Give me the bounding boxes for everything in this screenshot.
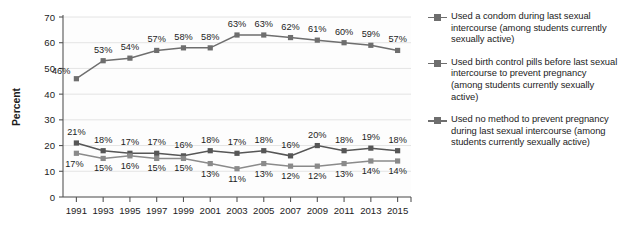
data-point-marker bbox=[181, 45, 186, 50]
x-axis-tick-label: 2015 bbox=[387, 205, 408, 216]
data-point-marker bbox=[127, 153, 132, 158]
data-point-marker bbox=[181, 156, 186, 161]
x-axis-tick-label: 1997 bbox=[146, 205, 167, 216]
data-point-marker bbox=[288, 153, 293, 158]
x-axis-tick-label: 2003 bbox=[226, 205, 247, 216]
data-point-label: 17% bbox=[147, 137, 165, 147]
data-point-marker bbox=[208, 45, 213, 50]
data-point-marker bbox=[315, 143, 320, 148]
data-point-marker bbox=[234, 166, 239, 171]
x-axis-tick-label: 1991 bbox=[66, 205, 87, 216]
data-point-label: 13% bbox=[255, 169, 273, 179]
y-axis-tick-label: 40 bbox=[44, 89, 55, 100]
legend-marker-icon bbox=[428, 11, 447, 24]
legend-item-label: Used no method to prevent pregnancy duri… bbox=[451, 113, 619, 148]
data-point-marker bbox=[315, 38, 320, 43]
data-point-label: 18% bbox=[388, 135, 406, 145]
data-point-marker bbox=[368, 43, 373, 48]
data-point-marker bbox=[395, 48, 400, 53]
data-point-label: 14% bbox=[388, 166, 406, 176]
data-point-marker bbox=[101, 156, 106, 161]
data-point-marker bbox=[234, 32, 239, 37]
y-axis-tick-label: 20 bbox=[44, 140, 55, 151]
data-point-marker bbox=[368, 146, 373, 151]
data-point-marker bbox=[341, 161, 346, 166]
y-axis-tick-label: 10 bbox=[44, 166, 55, 177]
data-point-label: 14% bbox=[362, 166, 380, 176]
data-point-marker bbox=[208, 161, 213, 166]
data-point-marker bbox=[368, 158, 373, 163]
data-point-label: 18% bbox=[255, 135, 273, 145]
x-axis-tick-label: 2001 bbox=[200, 205, 221, 216]
x-axis-tick-label: 1993 bbox=[92, 205, 113, 216]
data-point-label: 13% bbox=[335, 169, 353, 179]
data-point-label: 16% bbox=[281, 140, 299, 150]
data-point-label: 19% bbox=[362, 132, 380, 142]
legend-marker-icon bbox=[428, 57, 447, 70]
data-point-label: 18% bbox=[94, 135, 112, 145]
data-point-marker bbox=[261, 148, 266, 153]
data-point-marker bbox=[101, 148, 106, 153]
data-point-label: 13% bbox=[201, 169, 219, 179]
data-point-marker bbox=[74, 76, 79, 81]
data-point-label: 15% bbox=[147, 163, 165, 173]
data-point-label: 60% bbox=[335, 27, 353, 37]
data-point-label: 15% bbox=[174, 163, 192, 173]
x-axis-tick-label: 2009 bbox=[307, 205, 328, 216]
data-point-label: 58% bbox=[174, 32, 192, 42]
x-axis-tick-label: 1995 bbox=[119, 205, 140, 216]
data-point-label: 63% bbox=[228, 19, 246, 29]
data-point-label: 57% bbox=[388, 34, 406, 44]
chart-container: 010203040506070Percent199119931995199719… bbox=[0, 0, 619, 229]
x-axis-tick-label: 2011 bbox=[334, 205, 355, 216]
data-point-marker bbox=[395, 158, 400, 163]
data-point-label: 20% bbox=[308, 130, 326, 140]
y-axis-tick-label: 30 bbox=[44, 114, 55, 125]
data-point-marker bbox=[101, 58, 106, 63]
y-axis-title: Percent bbox=[11, 87, 22, 126]
x-axis-tick-label: 2013 bbox=[360, 205, 381, 216]
data-point-marker bbox=[154, 151, 159, 156]
legend-item-label: Used a condom during last sexual interco… bbox=[451, 10, 619, 45]
data-point-label: 16% bbox=[174, 140, 192, 150]
data-point-marker bbox=[288, 35, 293, 40]
data-point-label: 18% bbox=[201, 135, 219, 145]
x-axis-tick-label: 2005 bbox=[253, 205, 274, 216]
y-axis-tick-label: 0 bbox=[50, 192, 55, 203]
data-point-label: 54% bbox=[121, 42, 139, 52]
data-point-label: 59% bbox=[362, 29, 380, 39]
data-point-label: 11% bbox=[228, 174, 246, 184]
data-point-label: 15% bbox=[94, 163, 112, 173]
data-point-marker bbox=[234, 151, 239, 156]
data-point-label: 12% bbox=[281, 171, 299, 181]
data-point-label: 57% bbox=[147, 34, 165, 44]
legend-item-no-method: Used no method to prevent pregnancy duri… bbox=[428, 113, 619, 148]
data-point-marker bbox=[154, 48, 159, 53]
data-point-label: 58% bbox=[201, 32, 219, 42]
legend-item-birth-control-pills: Used birth control pills before last sex… bbox=[428, 56, 619, 102]
y-axis-tick-label: 70 bbox=[44, 12, 55, 23]
data-point-marker bbox=[154, 156, 159, 161]
data-point-marker bbox=[395, 148, 400, 153]
data-point-marker bbox=[341, 40, 346, 45]
data-point-marker bbox=[261, 161, 266, 166]
data-point-label: 17% bbox=[228, 137, 246, 147]
data-point-marker bbox=[341, 148, 346, 153]
data-point-marker bbox=[127, 56, 132, 61]
data-point-marker bbox=[74, 151, 79, 156]
data-point-marker bbox=[315, 164, 320, 169]
legend-item-label: Used birth control pills before last sex… bbox=[451, 56, 619, 102]
data-point-label: 21% bbox=[67, 127, 85, 137]
data-point-label: 17% bbox=[121, 137, 139, 147]
data-point-label: 61% bbox=[308, 24, 326, 34]
legend-marker-icon bbox=[428, 114, 447, 127]
data-point-label: 18% bbox=[335, 135, 353, 145]
data-point-label: 53% bbox=[94, 45, 112, 55]
chart-legend: Used a condom during last sexual interco… bbox=[428, 10, 619, 159]
data-point-label: 62% bbox=[281, 22, 299, 32]
data-point-label: 17% bbox=[65, 159, 83, 169]
x-axis-tick-label: 1999 bbox=[173, 205, 194, 216]
x-axis-tick-label: 2007 bbox=[280, 205, 301, 216]
data-point-marker bbox=[74, 140, 79, 145]
legend-item-condom: Used a condom during last sexual interco… bbox=[428, 10, 619, 45]
